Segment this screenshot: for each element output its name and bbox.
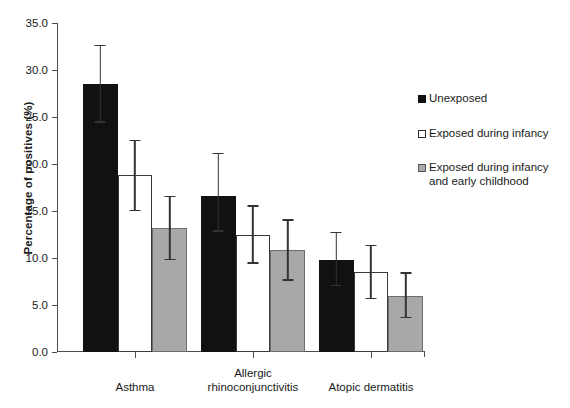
legend-item[interactable]: Exposed during infancy and early childho…: [418, 161, 568, 188]
legend-item-label: Exposed during infancy: [429, 127, 549, 141]
error-bar-stem: [100, 45, 101, 123]
error-bar-stem: [336, 232, 337, 287]
y-axis-tick-label: 20.0: [26, 158, 48, 170]
bar-slot: [118, 23, 153, 352]
y-axis-tick: [52, 258, 57, 259]
error-bar-cap-lower: [331, 285, 342, 286]
y-axis-tick-label: 35.0: [26, 17, 48, 29]
bar-slot: [83, 23, 118, 352]
error-bar: [129, 140, 140, 211]
legend-item[interactable]: Unexposed: [418, 92, 568, 106]
y-axis-tick: [52, 117, 57, 118]
legend-item[interactable]: Exposed during infancy: [418, 127, 568, 141]
chart-legend: UnexposedExposed during infancyExposed d…: [418, 92, 568, 209]
y-axis-tick: [52, 305, 57, 306]
error-bar: [331, 232, 342, 287]
legend-swatch-icon: [418, 130, 426, 138]
error-bar-stem: [218, 153, 219, 232]
bar-group: Atopic dermatitis: [319, 23, 423, 352]
error-bar-cap-upper: [365, 245, 376, 246]
x-axis-tick: [135, 352, 136, 358]
error-bar-cap-lower: [247, 262, 258, 263]
error-bar-stem: [169, 196, 170, 260]
y-axis-tick-label: 10.0: [26, 252, 48, 264]
error-bar-cap-lower: [129, 210, 140, 211]
legend-swatch-icon: [418, 164, 426, 172]
x-axis-end-tick: [424, 351, 425, 357]
bar-slot: [152, 23, 187, 352]
bar-chart-figure: Percentage of positives (%) 0.05.010.015…: [0, 0, 570, 408]
error-bar: [95, 45, 106, 123]
y-axis-line: [57, 23, 58, 352]
error-bar-cap-lower: [282, 279, 293, 280]
y-axis-tick-label: 5.0: [32, 299, 48, 311]
bar-slot: [319, 23, 354, 352]
y-axis-tick: [52, 352, 57, 353]
error-bar-cap-upper: [247, 205, 258, 206]
bar[interactable]: [83, 84, 118, 352]
error-bar-cap-lower: [365, 298, 376, 299]
error-bar-cap-lower: [164, 259, 175, 260]
error-bar-cap-upper: [400, 272, 411, 273]
y-axis-tick: [52, 23, 57, 24]
bar-slot: [236, 23, 271, 352]
bar-slot: [354, 23, 389, 352]
bar-slot: [270, 23, 305, 352]
error-bar: [213, 153, 224, 232]
error-bar: [247, 205, 258, 263]
y-axis-tick: [52, 70, 57, 71]
error-bar-cap-lower: [95, 121, 106, 122]
x-axis-category-label-line: Atopic dermatitis: [296, 381, 446, 395]
error-bar-stem: [134, 140, 135, 211]
plot-area: 0.05.010.015.020.025.030.035.0 AsthmaAll…: [57, 23, 425, 352]
y-axis-tick-label: 30.0: [26, 64, 48, 76]
x-axis-tick: [371, 352, 372, 358]
error-bar-cap-lower: [213, 230, 224, 231]
y-axis-tick-label: 15.0: [26, 205, 48, 217]
error-bar-stem: [287, 219, 288, 280]
legend-item-label: Unexposed: [429, 92, 487, 106]
bar-slot: [201, 23, 236, 352]
y-axis-tick: [52, 211, 57, 212]
error-bar: [365, 245, 376, 300]
error-bar: [400, 272, 411, 318]
error-bar-cap-lower: [400, 317, 411, 318]
y-axis-tick-label: 0.0: [32, 346, 48, 358]
error-bar-cap-upper: [129, 140, 140, 141]
error-bar-cap-upper: [282, 219, 293, 220]
legend-swatch-icon: [418, 95, 426, 103]
error-bar-cap-upper: [331, 232, 342, 233]
error-bar-cap-upper: [164, 196, 175, 197]
legend-item-label: Exposed during infancy and early childho…: [429, 161, 568, 188]
x-axis-category-label: Atopic dermatitis: [296, 381, 446, 395]
error-bar-cap-upper: [213, 153, 224, 154]
bar-group: Asthma: [83, 23, 187, 352]
error-bar-cap-upper: [95, 45, 106, 46]
bar-group: Allergicrhinoconjunctivitis: [201, 23, 305, 352]
y-axis-tick-label: 25.0: [26, 111, 48, 123]
y-axis-tick: [52, 164, 57, 165]
error-bar-stem: [252, 205, 253, 263]
x-axis-category-label-line: Allergic: [178, 367, 328, 381]
error-bar: [282, 219, 293, 280]
x-axis-tick: [253, 352, 254, 358]
error-bar-stem: [370, 245, 371, 300]
error-bar: [164, 196, 175, 260]
error-bar-stem: [405, 272, 406, 318]
